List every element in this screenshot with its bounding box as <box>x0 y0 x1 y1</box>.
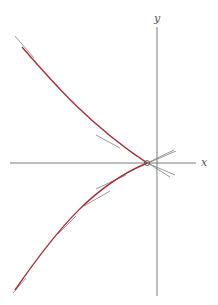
tangent-segment <box>147 163 175 175</box>
tangent-segment <box>13 278 26 293</box>
tangent-lines <box>13 36 176 293</box>
curve-lower-branch <box>15 163 147 290</box>
cusp-curve-diagram: x y <box>0 0 218 305</box>
tangent-segment <box>96 175 126 189</box>
y-axis-label: y <box>153 12 161 25</box>
curve-upper-branch <box>22 47 147 163</box>
tangent-segment <box>147 150 174 163</box>
x-axis-label: x <box>201 156 208 169</box>
tangent-segment <box>58 216 76 234</box>
tangent-segment <box>15 36 34 58</box>
